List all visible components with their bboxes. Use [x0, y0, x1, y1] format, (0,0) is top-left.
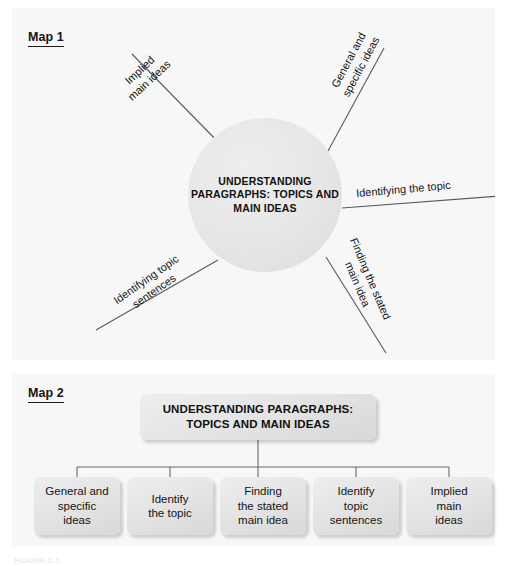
map2-leaf-node-topic: Identify the topic	[127, 477, 213, 535]
map2-leaf-node-implied: Implied main ideas	[406, 477, 492, 535]
map2-leaf-node-sentences: Identify topic sentences	[313, 477, 399, 535]
figure-caption: FIGURE 1.1	[14, 556, 60, 565]
map2-leaf-label: General and specific ideas	[45, 484, 108, 528]
map1-hub-text: UNDERSTANDING PARAGRAPHS: TOPICS AND MAI…	[188, 175, 342, 216]
map2-leaf-node-general: General and specific ideas	[34, 477, 120, 535]
map2-leaf-label: Identify the topic	[148, 492, 191, 521]
map2-root-node: UNDERSTANDING PARAGRAPHS: TOPICS AND MAI…	[140, 394, 376, 440]
map2-root-text: UNDERSTANDING PARAGRAPHS: TOPICS AND MAI…	[163, 402, 354, 432]
map2-leaf-label: Identify topic sentences	[330, 484, 382, 528]
map2-leaf-label: Implied main ideas	[430, 484, 467, 528]
map1-hub: UNDERSTANDING PARAGRAPHS: TOPICS AND MAI…	[188, 118, 342, 272]
map2-leaf-node-stated: Finding the stated main idea	[220, 477, 306, 535]
map2-leaf-label: Finding the stated main idea	[238, 484, 289, 528]
